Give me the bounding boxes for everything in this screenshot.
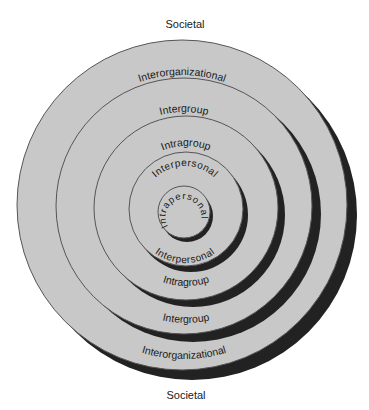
label-societal-top: Societal — [165, 18, 204, 30]
label-societal-bottom: Societal — [166, 389, 205, 401]
label-intergroup-bottom: Intergroup — [162, 311, 210, 325]
conflict-levels-diagram: Societal Societal Interorganizational In… — [0, 0, 369, 410]
